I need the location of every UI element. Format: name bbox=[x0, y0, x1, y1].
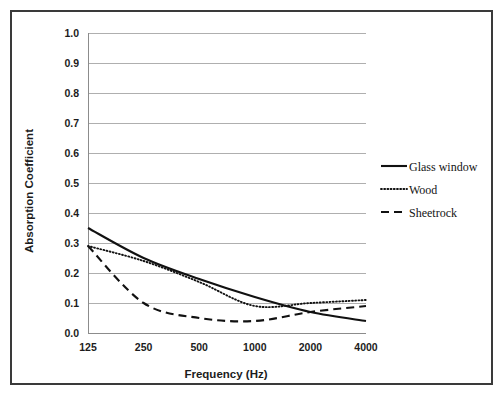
x-tick-label: 125 bbox=[79, 341, 97, 353]
y-tick-label: 0.3 bbox=[64, 237, 79, 249]
x-axis-title: Frequency (Hz) bbox=[184, 368, 267, 380]
y-axis-tick-labels: 1.00.90.80.70.60.50.40.30.20.10.0 bbox=[64, 27, 79, 339]
legend-label-wood: Wood bbox=[409, 183, 437, 197]
series-line-glass-window bbox=[88, 228, 366, 321]
y-tick-label: 0.8 bbox=[64, 87, 79, 99]
y-tick-label: 0.1 bbox=[64, 297, 79, 309]
y-tick-label: 0.4 bbox=[64, 207, 79, 219]
legend-label-glass-window: Glass window bbox=[409, 160, 478, 174]
x-tick-label: 4000 bbox=[354, 341, 378, 353]
x-tick-label: 1000 bbox=[243, 341, 267, 353]
y-tick-label: 0.9 bbox=[64, 57, 79, 69]
y-tick-label: 0.5 bbox=[64, 177, 79, 189]
x-tick-label: 500 bbox=[190, 341, 208, 353]
series-line-wood bbox=[88, 246, 366, 307]
legend-label-sheetrock: Sheetrock bbox=[409, 206, 457, 220]
figure-canvas: 1.00.90.80.70.60.50.40.30.20.10.0 125250… bbox=[0, 0, 504, 408]
x-tick-label: 250 bbox=[135, 341, 153, 353]
data-series-group bbox=[88, 228, 366, 321]
x-tick-label: 2000 bbox=[299, 341, 323, 353]
y-tick-label: 0.2 bbox=[64, 267, 79, 279]
y-tick-label: 0.6 bbox=[64, 147, 79, 159]
y-axis-title: Absorption Coefficient bbox=[23, 129, 35, 253]
x-axis-tick-labels: 125250500100020004000 bbox=[79, 341, 378, 353]
y-tick-label: 1.0 bbox=[64, 27, 79, 39]
y-tick-label: 0.7 bbox=[64, 117, 79, 129]
absorption-coefficient-line-chart: 1.00.90.80.70.60.50.40.30.20.10.0 125250… bbox=[0, 0, 504, 408]
chart-legend: Glass windowWoodSheetrock bbox=[381, 160, 478, 220]
y-tick-label: 0.0 bbox=[64, 327, 79, 339]
